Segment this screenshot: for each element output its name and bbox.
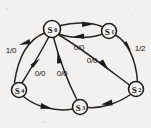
node-s4[interactable]: S 4 [12, 83, 27, 98]
node-s1-subscript: 1 [111, 29, 114, 35]
node-s2[interactable]: S 2 [129, 82, 144, 97]
node-s3[interactable]: S 3 [73, 100, 88, 115]
edge-label-1-2: 1/2 [135, 44, 146, 53]
node-s4-subscript: 4 [21, 88, 24, 94]
node-s3-label: S [76, 103, 81, 113]
edge-s3-to-s0-arrowhead [57, 52, 63, 64]
edge-s0-to-s1 [61, 21, 103, 27]
node-s0-label: S [47, 25, 52, 35]
edge-label-0-0-s3-s0: 0/0 [57, 69, 68, 78]
edge-label-0-0-s0-s2: 0/0 [87, 56, 98, 65]
node-s1-label: S [105, 27, 110, 37]
edge-s0-to-s1-arrowhead [82, 21, 93, 27]
edge-s2-to-s3 [88, 95, 131, 108]
edge-s1-to-s2 [116, 35, 138, 82]
node-s1[interactable]: S 1 [102, 24, 117, 39]
node-s3-subscript: 3 [82, 105, 85, 111]
edge-label-0-0-s4-s0: 0/0 [35, 69, 46, 78]
state-diagram-canvas: 1/0 0/0 1/2 0/0 0/0 0/0 S 0 S 1 S 2 [0, 0, 151, 128]
edge-s4-to-s3 [24, 97, 73, 110]
node-s4-label: S [15, 86, 20, 96]
edge-s4-to-s3-arrowhead [41, 103, 53, 109]
edge-label-1-0: 1/0 [6, 46, 17, 55]
edge-s1-to-s0 [60, 33, 102, 39]
edge-s2-to-s3-arrowhead [101, 100, 113, 106]
edge-s0-to-s4-arrowhead [19, 39, 31, 45]
node-s2-label: S [132, 85, 137, 95]
edge-layer [15, 21, 138, 109]
node-s0-subscript: 0 [54, 27, 57, 33]
edge-s0-to-s1-path [61, 23, 103, 27]
state-diagram-figure: 1/0 0/0 1/2 0/0 0/0 0/0 S 0 S 1 S 2 [0, 0, 151, 128]
node-s0[interactable]: S 0 [44, 21, 61, 38]
edge-label-0-0-s1-return: 0/0 [74, 43, 85, 52]
edge-s0-to-s2-arrowhead [99, 60, 109, 71]
node-s2-subscript: 2 [138, 87, 141, 93]
